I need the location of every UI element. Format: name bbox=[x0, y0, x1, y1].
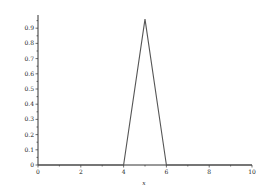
y-tick-label: 0.5 bbox=[24, 85, 34, 92]
x-tick-label: 0 bbox=[36, 168, 40, 175]
x-tick-label: 10 bbox=[248, 168, 256, 175]
x-tick-label: 8 bbox=[207, 168, 211, 175]
plot-area bbox=[38, 19, 252, 165]
y-tick-label: 0.1 bbox=[24, 146, 34, 153]
y-tick-label: 0.9 bbox=[24, 24, 34, 31]
y-tick-label: 0.8 bbox=[24, 39, 34, 46]
y-tick-label: 0.4 bbox=[24, 100, 34, 107]
y-tick-label: 0.3 bbox=[24, 115, 34, 122]
y-axis: 00.10.20.30.40.50.60.70.80.9 bbox=[24, 15, 38, 168]
series-line bbox=[38, 19, 252, 165]
x-tick-label: 6 bbox=[164, 168, 168, 175]
x-tick-label: 4 bbox=[122, 168, 126, 175]
chart: 00.10.20.30.40.50.60.70.80.9 0246810 x bbox=[0, 0, 268, 188]
y-tick-label: 0 bbox=[30, 161, 34, 168]
y-tick-label: 0.2 bbox=[24, 131, 34, 138]
y-tick-label: 0.6 bbox=[24, 70, 34, 77]
x-tick-label: 2 bbox=[79, 168, 83, 175]
x-axis: 0246810 bbox=[36, 165, 256, 175]
x-axis-label: x bbox=[142, 179, 146, 186]
y-tick-label: 0.7 bbox=[24, 55, 34, 62]
